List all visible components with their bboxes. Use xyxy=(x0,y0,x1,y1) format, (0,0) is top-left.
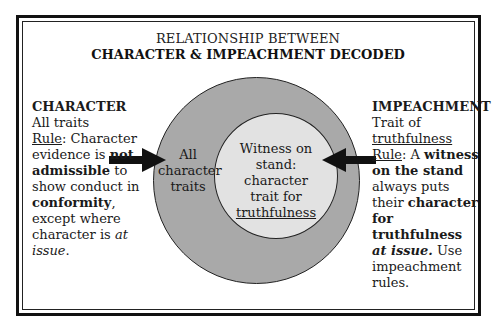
impeachment-subheading-underlined: truthfulness xyxy=(372,131,452,146)
right-arrow-icon xyxy=(322,148,376,172)
character-heading: CHARACTER xyxy=(32,99,142,115)
impeachment-heading: IMPEACHMENT xyxy=(372,99,480,115)
rule-label: Rule xyxy=(372,147,402,162)
rule-label: Rule xyxy=(32,131,62,146)
impeachment-subheading: Trait of xyxy=(372,115,421,130)
rule-text: : A xyxy=(402,147,424,162)
rule-text: . xyxy=(66,243,70,258)
character-subheading: All traits xyxy=(32,115,89,130)
character-panel: CHARACTER All traits Rule: Character evi… xyxy=(32,99,142,259)
rule-bold-italic: at issue. xyxy=(372,243,433,258)
rule-emphasis: conformity xyxy=(32,195,111,210)
impeachment-panel: IMPEACHMENT Trait of truthfulness Rule: … xyxy=(372,99,480,291)
